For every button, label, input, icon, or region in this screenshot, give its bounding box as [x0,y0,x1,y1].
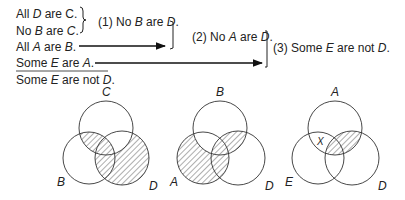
venn-diagram-2: B A D [169,85,274,193]
label-D: D [265,179,274,193]
label-E: E [285,175,294,189]
venn-diagram-3: A E D X [285,85,387,193]
label-B: B [216,85,224,99]
label-C: C [102,85,111,99]
brace-1 [80,7,86,33]
bracket-3 [265,31,267,67]
venn-diagram-1: C B D [57,85,158,193]
label-A: A [169,175,178,189]
label-D: D [149,179,158,193]
diagram-canvas: C B D B A D A E D X [0,0,405,200]
label-B: B [57,175,65,189]
label-A: A [330,85,339,99]
x-mark: X [316,136,324,147]
label-D: D [378,179,387,193]
bracket-2 [170,21,173,49]
